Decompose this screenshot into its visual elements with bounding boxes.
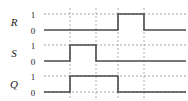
level-label-q-low: 0 (31, 88, 36, 98)
level-label-q-high: 1 (31, 72, 36, 82)
timing-diagram: R 1 0 S 1 0 Q 1 0 (0, 0, 188, 101)
signal-label-s: S (11, 47, 17, 59)
signal-label-q: Q (10, 78, 18, 90)
signal-row-q: Q 1 0 (10, 72, 186, 98)
signal-row-s: S 1 0 (11, 41, 186, 67)
level-label-s-high: 1 (31, 41, 36, 51)
horizontal-gridlines (44, 14, 186, 92)
signal-label-r: R (10, 16, 18, 28)
vertical-gridlines (70, 8, 144, 99)
waveform-q (44, 76, 186, 92)
level-label-r-high: 1 (31, 10, 36, 20)
waveform-s (44, 45, 186, 61)
level-label-r-low: 0 (31, 26, 36, 36)
level-label-s-low: 0 (31, 57, 36, 67)
waveform-r (44, 14, 186, 30)
